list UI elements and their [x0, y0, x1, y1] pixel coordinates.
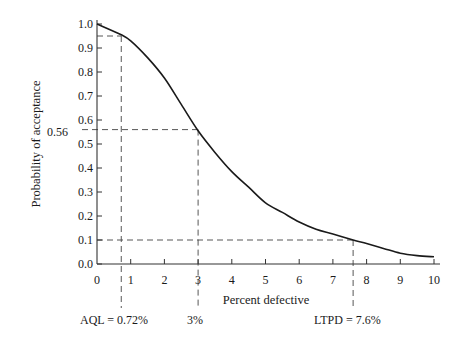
y-tick-label: 0.3 [78, 185, 93, 199]
y-axis-title: Probability of acceptance [29, 80, 43, 207]
oc-curve-chart: 0.00.10.20.30.40.50.60.70.80.91.00123456… [0, 0, 475, 339]
aql-label: AQL = 0.72% [80, 313, 148, 327]
y-tick-label: 0.4 [78, 161, 93, 175]
x-tick-label: 4 [229, 273, 235, 287]
x-tick-label: 10 [428, 273, 440, 287]
three-percent-label: 3% [187, 313, 203, 327]
y-tick-label: 0.2 [78, 209, 93, 223]
y-tick-label: 0.1 [78, 233, 93, 247]
y-tick-label: 0.7 [78, 89, 93, 103]
x-tick-label: 6 [296, 273, 302, 287]
x-tick-label: 8 [364, 273, 370, 287]
x-tick-label: 0 [94, 273, 100, 287]
y-tick-label: 0.0 [78, 257, 93, 271]
y-tick-label: 0.5 [78, 137, 93, 151]
y-tick-label: 0.9 [78, 41, 93, 55]
y-tick-label: 0.8 [78, 65, 93, 79]
x-tick-label: 3 [195, 273, 201, 287]
x-tick-label: 1 [128, 273, 134, 287]
y-tick-label: 1.0 [78, 17, 93, 31]
axes [97, 20, 440, 264]
x-axis-title: Percent defective [223, 293, 310, 307]
ltpd-label: LTPD = 7.6% [314, 313, 381, 327]
x-tick-label: 7 [330, 273, 336, 287]
y-tick-label: 0.6 [78, 113, 93, 127]
y-056-label: 0.56 [47, 125, 68, 139]
x-tick-label: 9 [397, 273, 403, 287]
tick-labels: 0.00.10.20.30.40.50.60.70.80.91.00123456… [78, 17, 440, 287]
reference-lines [82, 36, 353, 308]
x-tick-label: 5 [263, 273, 269, 287]
oc-curve-line [97, 24, 434, 257]
x-tick-label: 2 [161, 273, 167, 287]
